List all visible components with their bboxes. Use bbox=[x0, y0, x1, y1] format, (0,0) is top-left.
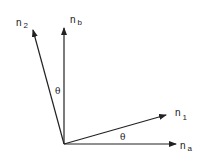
label-n-2: n2 bbox=[16, 17, 29, 30]
label-n-1: n1 bbox=[175, 107, 188, 122]
angle-theta-lower: θ bbox=[120, 132, 125, 142]
vector-diagram: na nb n1 n2 θ θ bbox=[0, 0, 201, 156]
vector-n-1 bbox=[64, 115, 166, 144]
label-n-a: na bbox=[180, 140, 193, 153]
angle-theta-upper: θ bbox=[55, 86, 60, 96]
label-n-b: nb bbox=[70, 14, 83, 27]
